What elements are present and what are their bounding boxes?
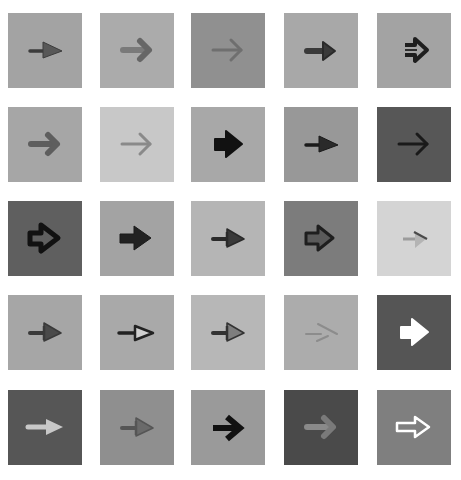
arrow-tile	[284, 107, 358, 182]
right-arrow-icon	[191, 201, 265, 276]
arrow-tile	[8, 201, 82, 276]
arrow-tile	[8, 107, 82, 182]
right-arrow-icon	[284, 295, 358, 370]
arrow-tile	[191, 201, 265, 276]
right-arrow-icon	[100, 201, 174, 276]
right-arrow-icon	[8, 295, 82, 370]
arrow-tile	[191, 107, 265, 182]
arrow-tile	[100, 107, 174, 182]
arrow-tile	[8, 295, 82, 370]
arrow-tile	[377, 390, 451, 465]
right-arrow-icon	[377, 201, 451, 276]
arrow-tile	[377, 107, 451, 182]
arrow-tile	[100, 295, 174, 370]
arrow-tile	[191, 13, 265, 88]
right-arrow-icon	[8, 201, 82, 276]
arrow-tile	[100, 390, 174, 465]
arrow-tile	[8, 390, 82, 465]
right-arrow-icon	[191, 107, 265, 182]
right-arrow-icon	[377, 295, 451, 370]
right-arrow-icon	[8, 390, 82, 465]
right-arrow-icon	[100, 390, 174, 465]
right-arrow-icon	[284, 107, 358, 182]
arrow-tile	[100, 13, 174, 88]
right-arrow-icon	[377, 107, 451, 182]
arrow-tile	[377, 13, 451, 88]
arrow-tile	[191, 295, 265, 370]
right-arrow-icon	[100, 107, 174, 182]
right-arrow-icon	[377, 13, 451, 88]
arrow-tile	[284, 390, 358, 465]
arrow-tile	[284, 201, 358, 276]
right-arrow-icon	[8, 107, 82, 182]
right-arrow-icon	[100, 295, 174, 370]
arrow-tile	[377, 201, 451, 276]
arrow-tile	[100, 201, 174, 276]
right-arrow-icon	[284, 201, 358, 276]
right-arrow-icon	[191, 390, 265, 465]
arrow-tile	[191, 390, 265, 465]
arrow-tile	[284, 13, 358, 88]
arrow-tile	[8, 13, 82, 88]
arrow-tile	[377, 295, 451, 370]
arrow-tile	[284, 295, 358, 370]
right-arrow-icon	[100, 13, 174, 88]
right-arrow-icon	[191, 295, 265, 370]
right-arrow-icon	[377, 390, 451, 465]
right-arrow-icon	[191, 13, 265, 88]
right-arrow-icon	[8, 13, 82, 88]
right-arrow-icon	[284, 390, 358, 465]
right-arrow-icon	[284, 13, 358, 88]
